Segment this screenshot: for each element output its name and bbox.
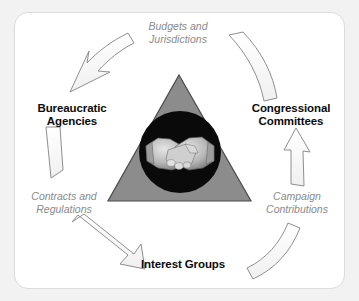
arrow-campaign-head <box>284 128 310 186</box>
diagram-canvas: Bureaucratic Agencies Congressional Comm… <box>0 0 359 301</box>
node-label-line-2: Agencies <box>16 115 128 128</box>
flow-label-line-2: Contributions <box>244 203 350 216</box>
node-label-line-2: Committees <box>232 115 350 128</box>
flow-label-line-2: Regulations <box>10 203 118 216</box>
node-label-line-1: Bureaucratic <box>16 102 128 115</box>
flow-label-line-1: Contracts and <box>10 190 118 203</box>
node-label-line-1: Interest Groups <box>124 258 242 271</box>
arrow-campaign-band <box>247 223 300 279</box>
arrow-budgets-band <box>229 32 277 101</box>
node-label-interest-groups: Interest Groups <box>124 258 242 271</box>
iron-triangle-graphic <box>0 0 359 301</box>
flow-label-line-1: Campaign <box>244 190 350 203</box>
node-label-bureaucratic-agencies: Bureaucratic Agencies <box>16 102 128 128</box>
node-label-line-1: Congressional <box>232 102 350 115</box>
flow-label-line-2: Jurisdictions <box>120 33 236 46</box>
arrow-contracts-band <box>46 127 63 178</box>
flow-label-line-1: Budgets and <box>120 20 236 33</box>
flow-label-contracts-and-regulations: Contracts and Regulations <box>10 190 118 215</box>
flow-label-budgets-and-jurisdictions: Budgets and Jurisdictions <box>120 20 236 45</box>
node-label-congressional-committees: Congressional Committees <box>232 102 350 128</box>
flow-label-campaign-contributions: Campaign Contributions <box>244 190 350 215</box>
